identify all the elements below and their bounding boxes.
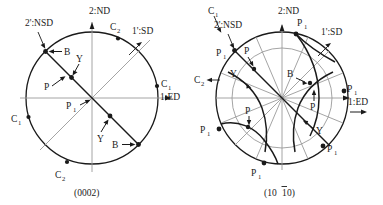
- label-p1-lower-right-sub: 1: [334, 149, 337, 156]
- pole-dot-c2-top: [116, 36, 120, 40]
- label-p1-center-sub: 1: [73, 106, 76, 113]
- great-circle-arc-top-right: [296, 34, 335, 62]
- caption-right-post: 0): [287, 188, 295, 199]
- figure-right-svg: C 1 2:ND P 1 2':NSD 1':SD C 2 P 1 P Y B …: [192, 0, 383, 205]
- c2-pointer-arrow: [207, 78, 213, 82]
- label-p1-upper-left: P: [216, 48, 221, 58]
- pole-dot-c2-bottom: [65, 160, 69, 164]
- pole-dot-c1-left: [26, 115, 30, 119]
- label-p1-center: P: [66, 101, 71, 111]
- b-pointer-arrow: [302, 81, 307, 85]
- label-b: B: [287, 69, 293, 79]
- label-p-lower-left: P: [245, 106, 250, 116]
- label-y-lower: Y: [97, 134, 104, 144]
- pole-dot-p1-lower-left: [217, 127, 222, 132]
- label-c2-left: C: [194, 75, 200, 85]
- label-sd: 1':SD: [132, 26, 153, 36]
- figure-left-svg: 2':NSD 2:ND 1':SD 1:ED C 2 C 1 C 1 C 2 B…: [0, 0, 192, 205]
- label-b-lower: B: [112, 140, 118, 150]
- nd-axis-arrow: [280, 24, 285, 31]
- label-ed: 1:ED: [160, 92, 180, 102]
- caption-right-group: (10 1 0): [264, 187, 295, 200]
- caption-right-pre: (10: [264, 188, 277, 199]
- label-c1-right-sub: 1: [168, 84, 171, 91]
- label-p1-upper-left-sub: 1: [223, 53, 226, 60]
- pole-dot-p1-upper-left: [232, 48, 237, 53]
- label-c1-left: C: [11, 114, 17, 124]
- pole-dot-inner-upper-left: [252, 67, 256, 71]
- label-p1-lower-right: P: [327, 144, 332, 154]
- pole-dot-p1-bottom: [262, 161, 267, 166]
- label-c1-right: C: [161, 79, 167, 89]
- label-y-upper: Y: [76, 54, 83, 64]
- p-right-pointer-arrow: [312, 90, 316, 96]
- label-c2-left-sub: 2: [201, 80, 204, 87]
- label-c2-bottom-sub: 2: [62, 175, 65, 182]
- label-p-right: P: [310, 102, 315, 112]
- label-p1-top: P: [297, 18, 302, 28]
- b-lower-pointer-arrow: [130, 142, 136, 146]
- figure-right-1010: C 1 2:ND P 1 2':NSD 1':SD C 2 P 1 P Y B …: [192, 0, 383, 205]
- sd-diagonal-line: [40, 40, 150, 150]
- sd-label-pointer-line: [129, 44, 140, 55]
- great-circle-arc-inner-right: [293, 72, 333, 152]
- nd-axis-arrow: [90, 22, 95, 29]
- label-b-upper: B: [64, 47, 70, 57]
- label-ed: 1:ED: [348, 97, 368, 107]
- figure-left-0002: 2':NSD 2:ND 1':SD 1:ED C 2 C 1 C 1 C 2 B…: [0, 0, 192, 205]
- pole-dot-p1-lower-right: [321, 144, 326, 149]
- label-nsd: 2':NSD: [25, 18, 53, 28]
- label-c1-top-sub: 1: [215, 11, 218, 18]
- label-c2-top-sub: 2: [117, 27, 120, 34]
- pole-dot-c1-right: [155, 84, 159, 88]
- b-upper-pointer-arrow: [49, 49, 55, 53]
- pole-dot-p1-top: [294, 32, 299, 37]
- label-p1-right-sub: 1: [354, 89, 357, 96]
- label-p1-lower-left: P: [200, 125, 205, 135]
- ed-label-pointer-arrow: [361, 110, 367, 115]
- sd-label-pointer-arrow: [325, 43, 331, 47]
- label-c1-top: C: [208, 6, 214, 16]
- label-p: P: [44, 82, 49, 92]
- label-p1-top-sub: 1: [304, 23, 307, 30]
- label-y-lower-right: Y: [316, 126, 323, 136]
- label-c2-top: C: [110, 22, 116, 32]
- pole-dot-b-upper-left: [43, 49, 48, 54]
- nsd-label-pointer-arrow: [41, 43, 46, 49]
- label-p1-lower-left-sub: 1: [207, 130, 210, 137]
- label-nd: 2:ND: [89, 6, 110, 16]
- label-sd: 1':SD: [321, 27, 342, 37]
- sd-label-pointer-arrow: [136, 42, 142, 46]
- label-p1-bottom-sub: 1: [258, 173, 261, 180]
- label-p1-bottom: P: [251, 168, 256, 178]
- label-p1-right: P: [347, 84, 352, 94]
- stereographic-projection-figure-pair: 2':NSD 2:ND 1':SD 1:ED C 2 C 1 C 1 C 2 B…: [0, 0, 383, 205]
- label-p-upper-left: P: [244, 46, 249, 56]
- great-circle-arc-lower-left: [221, 123, 278, 164]
- pole-dot-y-upper: [69, 75, 74, 80]
- label-nd: 2:ND: [278, 6, 299, 16]
- pole-dot-p1-right: [342, 89, 347, 94]
- label-c1-left-sub: 1: [18, 119, 21, 126]
- caption-left: (0002): [74, 188, 99, 199]
- pole-dot-y-lower: [108, 114, 113, 119]
- label-c2-bottom: C: [55, 170, 61, 180]
- pole-dot-b-lower-right: [136, 142, 141, 147]
- pole-dot-inner-b: [308, 81, 312, 85]
- label-nsd: 2':NSD: [214, 20, 242, 30]
- nsd-label-pointer-arrow: [230, 43, 235, 49]
- p-lower-pointer-arrow: [247, 120, 251, 126]
- label-y-upper-left: Y: [230, 69, 237, 79]
- pole-dot-inner-lower-left: [246, 125, 250, 129]
